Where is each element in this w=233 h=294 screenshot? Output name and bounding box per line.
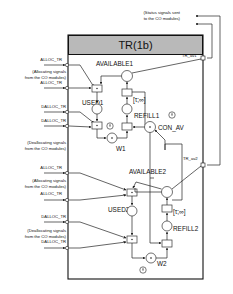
- input-port-1: ALLOC_TR: [40, 57, 68, 67]
- svg-text:(Status signals sent: (Status signals sent: [143, 10, 180, 15]
- note-dealloc1-l2: from the CO modules): [25, 146, 67, 151]
- input-port-7: DALLOC_TR: [41, 214, 68, 224]
- input-port-3: DALLOC_TR: [41, 104, 68, 114]
- place-available1: [122, 71, 133, 82]
- clock-icon: [107, 123, 113, 129]
- transition-refill2-out: [162, 205, 172, 212]
- svg-text:DALLOC_TR: DALLOC_TR: [41, 239, 66, 244]
- svg-text:DALLOC_TR: DALLOC_TR: [41, 104, 66, 109]
- svg-text:DALLOC_TR: DALLOC_TR: [41, 214, 66, 219]
- input-port-6: ALLOC_TR: [40, 191, 68, 202]
- transition-refill2-in: [162, 240, 172, 247]
- label-used2: USED2: [108, 206, 130, 213]
- clock-icon: [140, 267, 146, 273]
- note-alloc2-l2: from the CO modules): [25, 184, 67, 189]
- place-available2: [162, 187, 173, 198]
- label-available2: AVAILABLE2: [129, 168, 167, 175]
- label-con-av: CON_AV: [158, 124, 185, 132]
- label-refill2: REFILL2: [173, 225, 199, 232]
- note-dealloc2-l1: (Deallocating signals: [27, 228, 66, 233]
- label-refill1: REFILL1: [134, 112, 160, 119]
- input-port-2: ALLOC_TR: [40, 80, 68, 90]
- note-dealloc1-l1: (Deallocating signals: [27, 140, 66, 145]
- output-port-tr-av1: [201, 56, 205, 60]
- input-port-4: DALLOC_TR: [41, 118, 68, 128]
- place-refill2: [162, 221, 172, 231]
- label-tr-av1: TR_av1: [182, 53, 197, 58]
- svg-text:ALLOC_TR: ALLOC_TR: [40, 165, 62, 170]
- input-ports: ALLOC_TR (Allocating signals from the CO…: [25, 57, 69, 250]
- label-w2: W2: [157, 260, 167, 267]
- place-used1: [92, 104, 102, 114]
- input-port-8: DALLOC_TR: [41, 239, 68, 250]
- svg-text:ALLOC_TR: ALLOC_TR: [40, 191, 62, 196]
- label-w1: W1: [116, 145, 126, 152]
- svg-text:to the CO modules): to the CO modules): [144, 16, 181, 21]
- output-port-tr-av2: [201, 163, 205, 167]
- label-available1: AVAILABLE1: [96, 60, 134, 67]
- transition-refill1-in: [122, 123, 132, 130]
- note-alloc1-l1: (Allocating signals: [32, 69, 66, 74]
- input-port-5: ALLOC_TR: [40, 165, 68, 175]
- svg-text:ALLOC_TR: ALLOC_TR: [40, 57, 62, 62]
- svg-text:DALLOC_TR: DALLOC_TR: [41, 118, 66, 123]
- note-alloc2-l1: (Allocating signals: [32, 178, 66, 183]
- place-refill1: [122, 104, 132, 114]
- interval-refill2: [τ;∞]: [173, 208, 186, 216]
- petri-net-diagram: (Status signals sent to the CO modules) …: [0, 0, 233, 294]
- interval-refill1: [τ;∞]: [133, 96, 146, 104]
- label-tr-av2: TR_av2: [183, 156, 198, 161]
- transition-refill1-out: [122, 89, 132, 96]
- clock-icon: [169, 112, 175, 118]
- svg-text:ALLOC_TR: ALLOC_TR: [40, 80, 62, 85]
- place-used2: [127, 206, 137, 216]
- module-title: TR(1b): [118, 39, 152, 51]
